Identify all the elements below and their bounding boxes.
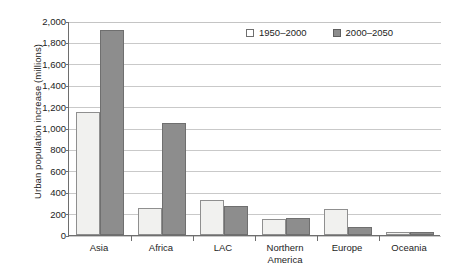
y-tick-label: 400	[22, 188, 66, 198]
y-tick-label: 2,000	[22, 17, 66, 27]
bar	[324, 209, 348, 235]
x-axis-label-line: Europe	[316, 242, 378, 254]
x-axis-label: NorthernAmerica	[254, 242, 316, 265]
bar-group	[255, 21, 317, 235]
chart-legend: 1950–2000 2000–2050	[246, 27, 393, 38]
bar	[286, 218, 310, 235]
x-tick-mark	[379, 236, 380, 241]
x-axis-label-line: LAC	[192, 242, 254, 254]
y-tick-label: 600	[22, 167, 66, 177]
x-axis-label: Asia	[68, 242, 130, 265]
series-a-swatch-icon	[246, 29, 254, 37]
x-axis-label: LAC	[192, 242, 254, 265]
x-axis-label-line: Oceania	[378, 242, 440, 254]
legend-item-series-b: 2000–2050	[333, 27, 394, 38]
series-b-swatch-icon	[333, 29, 341, 37]
bar	[348, 227, 372, 235]
bar	[138, 208, 162, 235]
y-tick-label: 800	[22, 145, 66, 155]
plot-area	[68, 22, 440, 236]
legend-label-series-a: 1950–2000	[259, 27, 307, 38]
bar	[76, 112, 100, 235]
x-axis-label: Europe	[316, 242, 378, 265]
x-tick-mark	[255, 236, 256, 241]
bar-group	[379, 21, 441, 235]
x-axis-label-line: Africa	[130, 242, 192, 254]
legend-item-series-a: 1950–2000	[246, 27, 307, 38]
x-tick-mark	[317, 236, 318, 241]
y-tick-label: 1,800	[22, 38, 66, 48]
x-axis-label: Oceania	[378, 242, 440, 265]
y-tick-label: 1,400	[22, 81, 66, 91]
y-tick-label: 200	[22, 210, 66, 220]
bar	[386, 232, 410, 235]
bar-groups	[69, 21, 441, 235]
bar	[262, 219, 286, 235]
x-axis-label-line: Asia	[68, 242, 130, 254]
bar	[410, 232, 434, 235]
bar-group	[317, 21, 379, 235]
y-tick-label: 1,000	[22, 124, 66, 134]
bar-group	[69, 21, 131, 235]
bar	[200, 200, 224, 235]
bar	[162, 123, 186, 235]
legend-label-series-b: 2000–2050	[346, 27, 394, 38]
bar	[224, 206, 248, 235]
bar	[100, 30, 124, 235]
y-tick-label: 0	[22, 231, 66, 241]
x-axis-label-line: Northern	[254, 242, 316, 254]
y-tick-label: 1,200	[22, 103, 66, 113]
x-tick-mark	[193, 236, 194, 241]
y-axis-ticks: 2,0001,8001,6001,4001,2001,0008006004002…	[16, 22, 66, 236]
y-tick-label: 1,600	[22, 60, 66, 70]
bar-chart: Urban population increase (millions) 2,0…	[0, 0, 455, 278]
bar-group	[131, 21, 193, 235]
x-tick-mark	[131, 236, 132, 241]
x-axis-labels: AsiaAfricaLACNorthernAmericaEuropeOceani…	[68, 242, 440, 265]
bar-group	[193, 21, 255, 235]
x-axis-label: Africa	[130, 242, 192, 265]
x-axis-label-line: America	[254, 254, 316, 266]
